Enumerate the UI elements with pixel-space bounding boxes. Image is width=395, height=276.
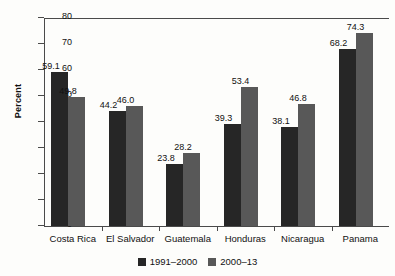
bar-value-label: 53.4: [224, 76, 258, 86]
x-axis-category-label: Guatemala: [159, 233, 217, 244]
bar-group: 68.274.3: [332, 18, 390, 226]
bar-value-label: 46.8: [281, 93, 315, 103]
x-axis-tick: [217, 226, 218, 231]
x-axis-tick: [274, 226, 275, 231]
bar: [281, 127, 298, 226]
bar-value-label: 28.2: [166, 142, 200, 152]
bars-layer: 59.149.844.246.023.828.239.353.438.146.8…: [44, 18, 389, 226]
legend-item[interactable]: 2000–13: [208, 256, 257, 267]
bar-chart: Percent 01020304050607080 59.149.844.246…: [0, 0, 395, 276]
bar-value-label: 49.8: [51, 86, 85, 96]
legend-item[interactable]: 1991–2000: [138, 256, 198, 267]
bar-value-label: 39.3: [207, 113, 241, 123]
x-axis-tick: [159, 226, 160, 231]
legend-swatch-icon: [138, 258, 146, 266]
y-axis-title: Percent: [13, 61, 23, 141]
bar-value-label: 59.1: [34, 61, 68, 71]
x-axis-category-label: Nicaragua: [274, 233, 332, 244]
bar-group: 38.146.8: [274, 18, 332, 226]
x-axis-category-label: Honduras: [217, 233, 275, 244]
bar: [356, 33, 373, 226]
bar-value-label: 74.3: [339, 22, 373, 32]
x-axis-category-label: El Salvador: [102, 233, 160, 244]
bar-value-label: 46.0: [109, 95, 143, 105]
legend-swatch-icon: [208, 258, 216, 266]
x-axis-tick: [332, 226, 333, 231]
bar-value-label: 23.8: [149, 153, 183, 163]
bar: [298, 104, 315, 226]
bar: [224, 124, 241, 226]
bar: [339, 49, 356, 226]
legend-label: 1991–2000: [150, 256, 198, 267]
x-axis-category-label: Costa Rica: [44, 233, 102, 244]
bar-group: 44.246.0: [102, 18, 160, 226]
x-axis-category-label: Panama: [332, 233, 390, 244]
bar: [241, 87, 258, 226]
bar-value-label: 68.2: [322, 38, 356, 48]
bar: [166, 164, 183, 226]
bar-value-label: 38.1: [264, 116, 298, 126]
x-axis-tick: [102, 226, 103, 231]
bar: [109, 111, 126, 226]
legend-label: 2000–13: [220, 256, 257, 267]
bar-group: 59.149.8: [44, 18, 102, 226]
bar: [126, 106, 143, 226]
bar: [183, 153, 200, 226]
bar: [68, 97, 85, 226]
chart-legend: 1991–20002000–13: [0, 256, 395, 267]
